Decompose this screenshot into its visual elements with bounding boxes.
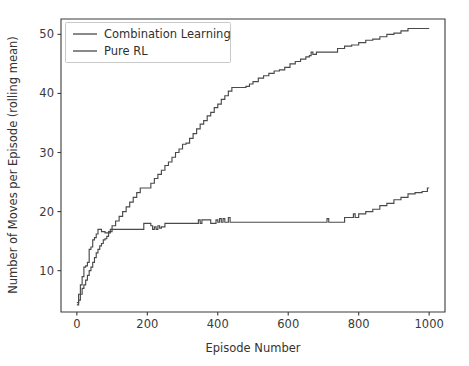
x-tick-label: 0 [73,317,80,331]
x-tick-label: 200 [136,317,158,331]
legend-label-pure-rl: Pure RL [104,44,148,58]
x-tick-label: 1000 [415,317,444,331]
y-tick-label: 40 [39,86,54,100]
y-tick-label: 30 [39,146,54,160]
legend[interactable]: Combination Learning Pure RL [66,23,231,63]
x-axis-title: Episode Number [205,341,300,355]
legend-label-combination-learning: Combination Learning [104,27,231,41]
y-tick-label: 20 [39,205,54,219]
line-chart: 02004006008001000 1020304050 Episode Num… [0,0,469,366]
x-tick-label: 600 [277,317,299,331]
x-tick-label: 400 [207,317,229,331]
y-tick-label: 50 [39,27,54,41]
y-tick-label: 10 [39,264,54,278]
y-axis-title: Number of Moves per Episode (rolling mea… [6,36,20,294]
x-tick-label: 800 [348,317,370,331]
matplotlib-figure: 02004006008001000 1020304050 Episode Num… [0,0,469,366]
